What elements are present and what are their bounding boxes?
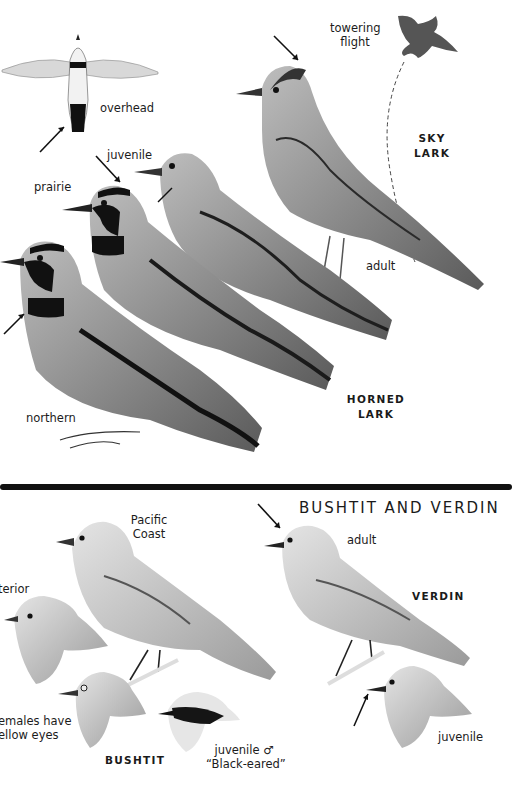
label-females-yellow-eyes: emales have ellow eyes (0, 714, 71, 742)
bushtit-pacific-coast-illustration (56, 522, 276, 686)
label-females-line2: ellow eyes (0, 728, 71, 742)
label-pacific-coast: Pacific Coast (124, 513, 174, 541)
label-towering-flight: towering flight (330, 21, 380, 49)
label-juv-male-line2: “Black-eared” (206, 757, 282, 771)
label-pacific-line2: Coast (124, 527, 174, 541)
overhead-arrow (40, 127, 64, 152)
label-northern: northern (26, 411, 76, 425)
label-juvenile-male-black-eared: juvenile ♂ “Black-eared” (206, 743, 282, 771)
species-name-sky-lark: SKY LARK (398, 131, 466, 161)
label-prairie: prairie (34, 180, 71, 194)
label-juv-male-line1: juvenile ♂ (206, 743, 282, 757)
sky-lark-flight-silhouette (398, 16, 458, 58)
label-overhead: overhead (100, 101, 154, 115)
label-juvenile-verdin: juvenile (438, 730, 483, 744)
label-females-line1: emales have (0, 714, 71, 728)
plate-illustration (0, 0, 512, 799)
horned-lark-line2: LARK (343, 407, 409, 422)
species-name-horned-lark: HORNED LARK (343, 392, 409, 422)
label-interior: terior (0, 582, 29, 596)
horned-lark-overhead-illustration (2, 34, 158, 132)
label-adult-sky-lark: adult (366, 259, 395, 273)
label-towering-line2: flight (330, 35, 380, 49)
label-towering-line1: towering (330, 21, 380, 35)
species-name-verdin: VERDIN (412, 589, 462, 604)
label-pacific-line1: Pacific (124, 513, 174, 527)
section-divider (0, 484, 512, 490)
horned-lark-line1: HORNED (343, 392, 409, 407)
crest-arrow (274, 36, 298, 60)
section-title-bushtit-and-verdin: BUSHTIT AND VERDIN (299, 499, 500, 517)
label-adult-verdin: adult (347, 533, 376, 547)
species-name-bushtit: BUSHTIT (104, 753, 166, 768)
verdin-adult-illustration (264, 526, 470, 684)
label-juvenile: juvenile (107, 148, 152, 162)
